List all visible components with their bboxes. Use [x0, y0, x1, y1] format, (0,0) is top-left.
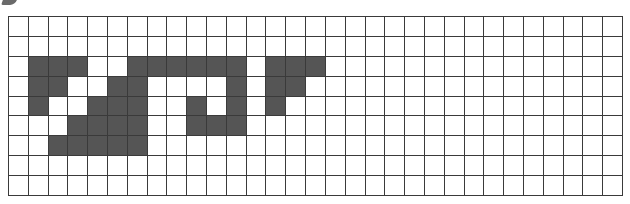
- pixel-grid: [8, 16, 623, 196]
- grid-cell-filled: [187, 97, 207, 117]
- grid-cell: [187, 176, 207, 196]
- grid-cell: [9, 17, 29, 37]
- grid-cell: [108, 176, 128, 196]
- grid-cell: [187, 156, 207, 176]
- grid-cell: [425, 17, 445, 37]
- grid-cell: [108, 17, 128, 37]
- grid-cell-filled: [306, 57, 326, 77]
- grid-cell: [603, 77, 623, 97]
- grid-cell: [346, 97, 366, 117]
- grid-cell-filled: [29, 77, 49, 97]
- grid-cell: [346, 17, 366, 37]
- grid-cell: [306, 176, 326, 196]
- grid-cell: [286, 17, 306, 37]
- grid-cell: [207, 37, 227, 57]
- grid-cell: [445, 37, 465, 57]
- grid-cell: [385, 57, 405, 77]
- grid-cell: [346, 77, 366, 97]
- grid-cell: [583, 17, 603, 37]
- grid-cell-filled: [108, 136, 128, 156]
- grid-cell: [326, 77, 346, 97]
- grid-cell: [187, 17, 207, 37]
- grid-cell: [68, 176, 88, 196]
- grid-cell: [603, 97, 623, 117]
- grid-cell: [544, 37, 564, 57]
- grid-cell: [583, 116, 603, 136]
- grid-cell-filled: [286, 57, 306, 77]
- grid-cell: [425, 136, 445, 156]
- grid-cell: [603, 17, 623, 37]
- grid-cell: [49, 116, 69, 136]
- grid-cell: [148, 156, 168, 176]
- grid-cell: [366, 156, 386, 176]
- grid-cell-filled: [187, 116, 207, 136]
- grid-cell: [306, 116, 326, 136]
- grid-cell: [583, 176, 603, 196]
- grid-cell: [504, 156, 524, 176]
- grid-cell: [187, 77, 207, 97]
- grid-cell: [445, 156, 465, 176]
- grid-cell: [266, 37, 286, 57]
- grid-cell: [346, 37, 366, 57]
- grid-cell: [544, 97, 564, 117]
- grid-cell: [484, 17, 504, 37]
- grid-cell-filled: [68, 136, 88, 156]
- grid-cell: [564, 97, 584, 117]
- grid-cell: [326, 136, 346, 156]
- grid-cell: [405, 97, 425, 117]
- grid-cell: [286, 97, 306, 117]
- grid-cell: [207, 97, 227, 117]
- grid-cell: [385, 17, 405, 37]
- grid-cell: [128, 37, 148, 57]
- grid-cell: [88, 17, 108, 37]
- grid-cell-filled: [128, 136, 148, 156]
- grid-cell: [484, 97, 504, 117]
- grid-cell: [266, 17, 286, 37]
- grid-cell: [167, 116, 187, 136]
- grid-cell: [366, 116, 386, 136]
- grid-cell: [49, 156, 69, 176]
- grid-cell: [564, 57, 584, 77]
- grid-cell: [425, 77, 445, 97]
- grid-cell: [247, 116, 267, 136]
- grid-cell: [247, 97, 267, 117]
- grid-cell: [564, 37, 584, 57]
- grid-cell: [148, 176, 168, 196]
- grid-cell: [445, 97, 465, 117]
- grid-cell: [227, 17, 247, 37]
- grid-cell-filled: [167, 57, 187, 77]
- grid-cell: [603, 136, 623, 156]
- grid-cell: [544, 156, 564, 176]
- grid-cell: [286, 156, 306, 176]
- grid-cell: [148, 116, 168, 136]
- grid-cell-filled: [108, 97, 128, 117]
- grid-cell: [108, 37, 128, 57]
- grid-cell: [425, 156, 445, 176]
- grid-cell: [524, 57, 544, 77]
- grid-cell: [484, 57, 504, 77]
- grid-cell: [425, 37, 445, 57]
- grid-cell-filled: [108, 77, 128, 97]
- grid-cell: [108, 156, 128, 176]
- grid-cell: [148, 17, 168, 37]
- grid-cell: [247, 37, 267, 57]
- grid-cell-filled: [88, 97, 108, 117]
- grid-cell: [385, 97, 405, 117]
- grid-cell: [366, 57, 386, 77]
- grid-cell: [247, 17, 267, 37]
- grid-cell: [504, 37, 524, 57]
- grid-cell: [504, 97, 524, 117]
- grid-cell: [187, 37, 207, 57]
- grid-cell: [544, 57, 564, 77]
- grid-cell: [385, 156, 405, 176]
- grid-cell: [603, 176, 623, 196]
- grid-cell: [247, 156, 267, 176]
- grid-cell: [29, 136, 49, 156]
- grid-cell: [385, 116, 405, 136]
- grid-cell: [524, 17, 544, 37]
- grid-cell: [425, 176, 445, 196]
- grid-cell: [465, 136, 485, 156]
- grid-cell: [29, 116, 49, 136]
- grid-cell: [465, 116, 485, 136]
- grid-cell: [306, 37, 326, 57]
